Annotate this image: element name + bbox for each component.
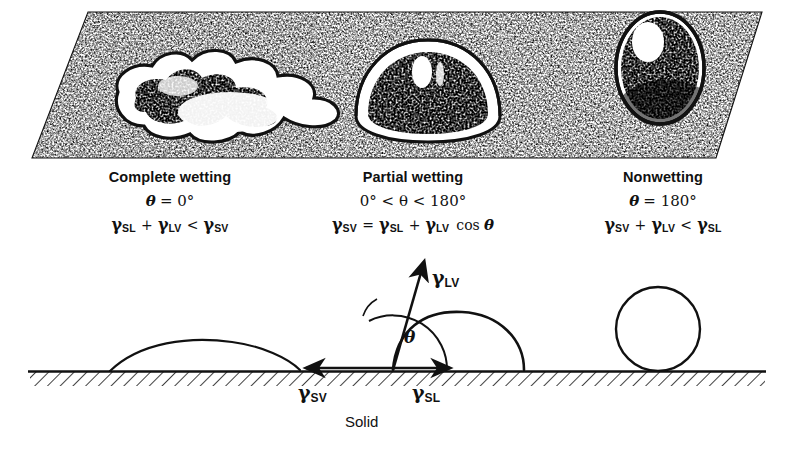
- profile-circle: [616, 287, 700, 371]
- label-gamma-sv: γSV: [298, 381, 327, 405]
- gamma-symbol: γ: [412, 381, 425, 403]
- bottom-panel-graphic: [0, 0, 785, 461]
- gamma-symbol: γ: [298, 381, 311, 403]
- gamma-symbol: γ: [432, 266, 445, 288]
- solid-substrate: [28, 372, 766, 387]
- label-gamma-sl: γSL: [412, 381, 440, 405]
- wetting-figure: Complete wetting θ = 0° γSL + γLV < γSV …: [0, 0, 785, 461]
- substrate-label: Solid: [345, 413, 378, 430]
- label-gamma-lv: γLV: [432, 266, 459, 290]
- theta-symbol: θ: [404, 327, 415, 347]
- gamma-subscript: SV: [311, 391, 327, 405]
- gamma-subscript: LV: [445, 276, 460, 290]
- label-contact-angle: θ: [404, 327, 415, 347]
- profile-spread: [110, 340, 300, 371]
- gamma-subscript: SL: [425, 391, 441, 405]
